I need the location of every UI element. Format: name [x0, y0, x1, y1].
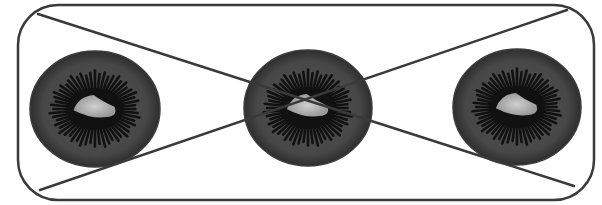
diagram-svg [0, 0, 602, 205]
kiwi-slice-left [30, 51, 160, 167]
kiwi-slice-right [453, 49, 581, 165]
kiwi-slice-center [244, 50, 372, 166]
kiwi-cross-diagram [0, 0, 602, 205]
kiwi-slices [30, 49, 581, 167]
